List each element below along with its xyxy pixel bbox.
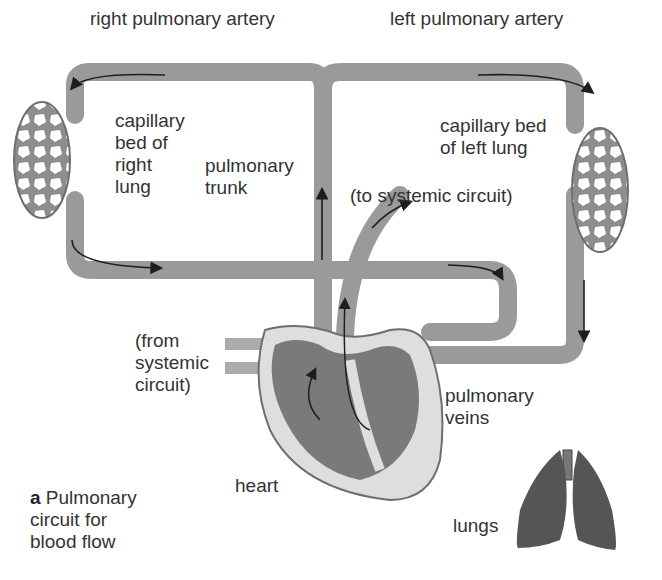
label-pulmonary-veins: pulmonary veins [445,385,534,429]
left-lung-capillary-bed [572,128,628,252]
lungs-illustration [517,450,616,550]
label-from-systemic-circuit: (from systemic circuit) [135,330,209,396]
caption-letter: a [30,487,41,508]
label-lungs: lungs [453,515,498,537]
right-lung-capillary-bed [14,102,70,218]
label-left-pulmonary-artery: left pulmonary artery [390,8,563,30]
label-heart: heart [235,475,278,497]
caption-text: Pulmonary circuit for blood flow [30,487,137,552]
label-to-systemic-circuit: (to systemic circuit) [350,185,513,207]
label-pulmonary-trunk: pulmonary trunk [205,155,294,199]
label-capillary-right-lung: capillary bed of right lung [115,110,185,198]
label-capillary-left-lung: capillary bed of left lung [440,115,547,159]
label-right-pulmonary-artery: right pulmonary artery [90,8,275,30]
figure-caption: a Pulmonary circuit for blood flow [30,487,137,553]
